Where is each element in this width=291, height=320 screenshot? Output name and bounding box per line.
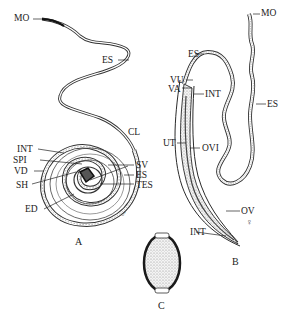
label-vagina: VA bbox=[168, 84, 181, 94]
male-worm-drawing bbox=[32, 19, 138, 225]
label-oviduct: OVI bbox=[202, 143, 219, 153]
female-symbol: ♀ bbox=[246, 217, 253, 227]
label-cloaca: CL bbox=[128, 127, 140, 137]
panel-label-a: A bbox=[75, 236, 82, 247]
label-testis: TES bbox=[136, 180, 153, 190]
label-spicule-sheath: SH bbox=[16, 180, 28, 190]
label-ovary: OV bbox=[241, 206, 255, 216]
panel-label-b: B bbox=[232, 256, 239, 267]
panel-label-c: C bbox=[158, 300, 165, 311]
label-esophagus-b-right: ES bbox=[267, 99, 278, 109]
male-symbol: ♂ bbox=[120, 209, 127, 219]
label-esophagus-a: ES bbox=[136, 170, 147, 180]
label-esophagus-b-top: ES bbox=[188, 49, 199, 59]
label-intestine-a: INT bbox=[17, 144, 33, 154]
label-esophagus-a-top: ES bbox=[102, 55, 113, 65]
label-spicule: SPI bbox=[13, 155, 27, 165]
label-mouth-a: MO bbox=[14, 13, 29, 23]
label-intestine-b-bottom: INT bbox=[190, 227, 206, 237]
egg-drawing bbox=[144, 233, 180, 293]
label-uterus: UT bbox=[163, 138, 176, 148]
label-mouth-b: MO bbox=[261, 8, 276, 18]
label-seminal-vesicle: SV bbox=[136, 160, 148, 170]
label-intestine-b-top: INT bbox=[205, 89, 221, 99]
label-ejaculatory-duct: ED bbox=[25, 204, 38, 214]
label-vas-deferens: VD bbox=[14, 166, 28, 176]
